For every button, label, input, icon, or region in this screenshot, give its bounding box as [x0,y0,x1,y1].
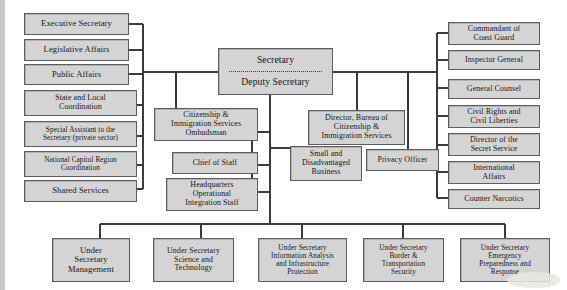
secretary-title: Secretary [221,51,330,70]
deputy-secretary-title: Deputy Secretary [221,73,330,92]
node-secretary[interactable]: Secretary Deputy Secretary [218,48,333,95]
node-chief-of-staff[interactable]: Chief of Staff [172,152,258,174]
node-small-and-disadvantaged-business[interactable]: Small and Disadvantaged Business [290,146,362,181]
node-state-and-local-coordination[interactable]: State and Local Coordination [24,90,137,116]
node-under-secretary-information-analysis[interactable]: Under Secretary Information Analysis and… [258,238,347,282]
node-general-counsel[interactable]: General Counsel [448,79,540,99]
node-citizenship-immigration-services-ombudsman[interactable]: Citizenship & Immigration Services Ombud… [154,108,258,141]
scan-artifact [507,272,561,288]
node-public-affairs[interactable]: Public Affairs [24,64,129,85]
node-director-bureau-of-citizenship-immigration-services[interactable]: Director, Bureau of Citizenship & Immigr… [308,110,405,145]
node-privacy-officer[interactable]: Privacy Officer [366,149,439,171]
node-director-of-the-secret-service[interactable]: Director of the Secret Service [448,133,540,156]
node-under-secretary-management[interactable]: Under Secretary Management [52,238,130,282]
node-shared-services[interactable]: Shared Services [24,180,137,202]
secretary-divider [229,71,323,72]
node-international-affairs[interactable]: International Affairs [448,161,540,184]
node-inspector-general[interactable]: Inspector General [448,50,540,70]
node-counter-narcotics[interactable]: Counter Narcotics [448,189,540,209]
node-civil-rights-and-civil-liberties[interactable]: Civil Rights and Civil Liberties [448,105,540,128]
node-under-secretary-science-and-technology[interactable]: Under Secretary Science and Technology [153,238,234,282]
node-headquarters-operational-integration-staff[interactable]: Headquarters Operational Integration Sta… [166,178,258,211]
org-chart: Secretary Deputy Secretary Executive Sec… [0,0,567,290]
page-margin-artifact [0,0,5,290]
node-legislative-affairs[interactable]: Legislative Affairs [24,39,129,61]
node-national-capitol-region-coordination[interactable]: National Capitol Region Coordination [24,151,137,177]
node-under-secretary-border-transportation-security[interactable]: Under Secretary Border & Transportation … [363,238,444,282]
node-special-assistant-to-the-secretary[interactable]: Special Assistant to the Secretary (priv… [24,121,137,147]
node-executive-secretary[interactable]: Executive Secretary [24,13,129,35]
node-commandant-of-coast-guard[interactable]: Commandant of Coast Guard [448,22,540,45]
